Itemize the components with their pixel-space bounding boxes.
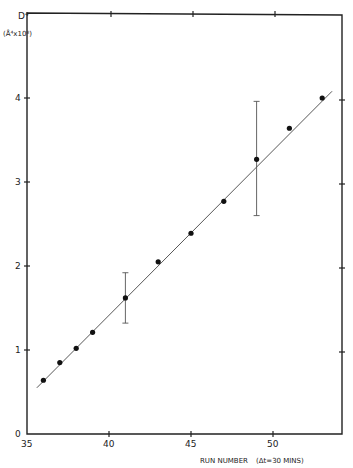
data-point [90, 330, 95, 335]
data-point [41, 378, 46, 383]
error-bars [122, 101, 259, 323]
y-tick-label: 0 [15, 429, 21, 439]
y-axis-units: (Å⁴x10⁸) [3, 29, 32, 38]
x-tick-label: 50 [267, 439, 279, 449]
x-axis-note: (Δt=30 MINS) [256, 457, 304, 465]
axis-ticks: 3540455001234 [15, 11, 345, 449]
data-point [287, 126, 292, 131]
chart: 3540455001234 D⁴ (Å⁴x10⁸) RUN NUMBER (Δt… [0, 0, 353, 468]
data-point [221, 199, 226, 204]
data-point [254, 157, 259, 162]
data-point [156, 259, 161, 264]
y-axis-label: D⁴ [18, 11, 29, 21]
x-tick-label: 35 [21, 439, 32, 449]
data-point [320, 95, 325, 100]
y-tick-label: 2 [15, 261, 21, 271]
data-point [57, 360, 62, 365]
x-tick-label: 45 [185, 439, 196, 449]
x-axis-label: RUN NUMBER [200, 457, 248, 465]
axes-box [27, 13, 342, 434]
data-point [74, 346, 79, 351]
data-points [41, 95, 325, 382]
y-tick-label: 3 [15, 177, 21, 187]
data-point [123, 295, 128, 300]
y-tick-label: 1 [15, 345, 21, 355]
plot-frame [27, 13, 342, 434]
data-point [188, 231, 193, 236]
x-tick-label: 40 [103, 439, 115, 449]
y-tick-label: 4 [15, 93, 21, 103]
fit-line [37, 91, 332, 388]
